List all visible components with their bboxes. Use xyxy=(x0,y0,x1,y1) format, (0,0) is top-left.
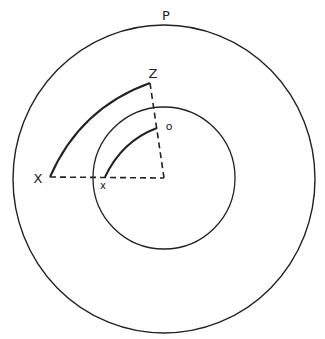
label-big-x: X xyxy=(34,171,43,186)
outer-circle xyxy=(13,25,315,333)
label-p: P xyxy=(162,8,170,23)
outer-arc-x-to-z xyxy=(50,83,150,177)
label-z: Z xyxy=(149,66,158,81)
concentric-circles-diagram: P Z o X x xyxy=(0,0,325,339)
dashed-radius-to-x xyxy=(50,177,164,178)
inner-arc-x-to-o xyxy=(105,128,157,177)
label-small-x: x xyxy=(100,180,106,191)
label-o: o xyxy=(166,120,173,133)
